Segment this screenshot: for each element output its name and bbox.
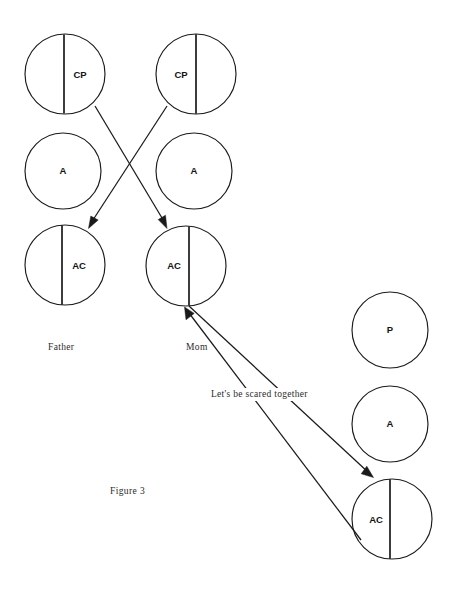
circle-outline — [25, 34, 105, 114]
ego-state-label: A — [191, 165, 198, 176]
ego-state-father-a: A — [25, 133, 101, 209]
transaction-arrow-child-ac-to-mom-ac — [185, 307, 362, 540]
ego-state-mom-ac: AC — [146, 226, 226, 306]
ego-state-father-ac: AC — [25, 225, 105, 305]
arrow-head-icon — [89, 216, 99, 228]
ego-state-child-a: A — [352, 386, 428, 462]
ego-state-label: AC — [72, 260, 86, 271]
transaction-shaft — [189, 313, 361, 540]
transaction-label: Let's be scared together — [211, 389, 308, 399]
transaction-shaft — [95, 106, 165, 223]
figure-caption: Figure 3 — [110, 486, 145, 496]
ego-state-label: P — [387, 324, 394, 335]
circle-outline — [352, 479, 432, 559]
ego-state-mom-a: A — [156, 133, 232, 209]
column-label-father: Father — [48, 342, 75, 352]
transaction-shaft — [91, 106, 167, 223]
arrow-head-icon — [158, 215, 167, 228]
ego-state-father-cp: CP — [25, 34, 105, 114]
ego-state-label: A — [387, 418, 394, 429]
column-label-mom: Mom — [186, 342, 208, 352]
ego-state-label: AC — [167, 260, 181, 271]
figure-canvas: CP A AC CP A AC P — [0, 0, 451, 589]
ego-state-label: A — [60, 165, 67, 176]
ego-state-child-ac: AC — [352, 479, 432, 559]
ego-state-child-p: P — [352, 292, 428, 368]
ego-state-label: AC — [369, 514, 383, 525]
transactional-analysis-figure: CP A AC CP A AC P — [0, 0, 451, 589]
ego-state-mom-cp: CP — [156, 34, 236, 114]
circle-outline — [25, 225, 105, 305]
ego-state-label: CP — [174, 69, 188, 80]
ego-state-label: CP — [73, 69, 87, 80]
circle-outline — [146, 226, 226, 306]
